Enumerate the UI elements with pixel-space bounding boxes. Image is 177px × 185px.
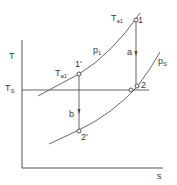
point-2-label: 2 bbox=[141, 81, 146, 90]
intersection-ts-marker bbox=[129, 88, 133, 92]
ta1-sub: a1 bbox=[117, 18, 124, 24]
isobar-ps-curve bbox=[49, 52, 160, 144]
arrow-down-icon bbox=[135, 51, 138, 56]
point-1prime-label: 1' bbox=[75, 60, 82, 69]
ts-diagram bbox=[0, 0, 177, 185]
point-2prime-label: 2' bbox=[81, 133, 88, 142]
process-a-label: a bbox=[127, 48, 132, 57]
p1-sub: 1 bbox=[98, 50, 101, 56]
point-2-marker bbox=[135, 84, 139, 88]
ta1prime-main: T bbox=[55, 68, 61, 78]
ta1-main: T bbox=[111, 13, 117, 23]
isobar-p1-curve bbox=[38, 13, 140, 96]
arrow-down-icon bbox=[78, 109, 81, 114]
ps-sub: S bbox=[163, 61, 167, 67]
process-b-label: b bbox=[69, 110, 74, 119]
ta1prime-sub: a1' bbox=[61, 73, 69, 79]
y-axis-label: T bbox=[9, 52, 15, 61]
point-1prime-marker bbox=[77, 72, 81, 76]
ts-label-main: T bbox=[5, 83, 11, 93]
ta1-label: Ta1 bbox=[111, 14, 123, 23]
point-1-label: 1 bbox=[138, 16, 143, 25]
ts-label: TS bbox=[5, 84, 15, 93]
isobar-ps-label: pS bbox=[158, 57, 167, 66]
ts-label-sub: S bbox=[11, 88, 15, 94]
isobar-p1-label: p1 bbox=[93, 46, 101, 55]
ta1prime-label: Ta1' bbox=[55, 69, 68, 78]
x-axis-label: s bbox=[157, 172, 162, 181]
